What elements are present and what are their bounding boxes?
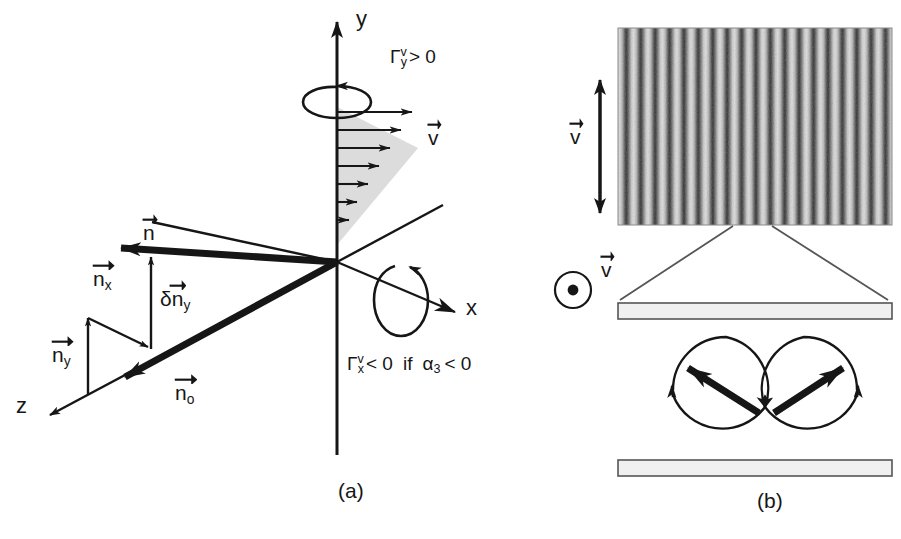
overbar-arrow-icon: [169, 277, 186, 290]
director-nx-subscript: x: [105, 277, 112, 293]
velocity-letter-out-of-plane: v: [601, 258, 612, 281]
overbar-arrow-icon: [600, 248, 615, 261]
director-label-delta-ny: δny: [160, 288, 190, 313]
velocity-vector-letter: v: [428, 126, 439, 149]
convection-roll-left: [672, 337, 768, 429]
overbar-arrow-icon: [569, 115, 584, 128]
guide-line-right: [772, 226, 888, 300]
gamma-x-subscript: x: [358, 362, 364, 376]
director-letter-ny: n: [52, 343, 64, 366]
alpha3-relation: < 0: [444, 353, 471, 374]
y-axis-label: y: [356, 8, 367, 30]
alpha3-subscript: 3: [433, 362, 440, 376]
gamma-x-symbol: Γ: [347, 353, 357, 374]
convection-stripe-photo: [618, 28, 892, 225]
director-letter-n0: n: [175, 381, 187, 404]
overbar-arrow-icon: [92, 257, 115, 270]
director-ny-subscript: y: [64, 353, 71, 369]
velocity-letter-vertical: v: [570, 125, 581, 148]
guide-line-left: [620, 226, 733, 300]
director-letter-delta-ny: δn: [160, 287, 183, 310]
gamma-y-relation: > 0: [409, 46, 436, 67]
velocity-label-vertical: v: [570, 126, 581, 147]
gamma-x-relation: < 0: [366, 353, 393, 374]
overbar-arrow-icon: [174, 371, 197, 384]
component-nx-arrow: [88, 318, 148, 347]
velocity-label-out-of-plane: v: [601, 259, 612, 280]
gamma-x-if-word: if: [403, 353, 413, 374]
director-delta-ny-subscript: y: [183, 297, 190, 313]
overbar-arrow-icon: [142, 211, 158, 224]
figure-root: y x z Γvy> 0 Γvx< 0ifα3< 0 v: [0, 0, 901, 539]
gamma-y-torque-label: Γvy> 0: [390, 46, 436, 69]
roll-left-director-arrow: [688, 368, 759, 413]
z-axis-label: z: [16, 395, 27, 417]
x-axis-line: [337, 262, 455, 312]
top-plate-rect: [618, 303, 892, 319]
bottom-plate-rect: [618, 460, 892, 476]
alpha3-symbol: α: [422, 353, 433, 374]
director-label-nx: nx: [93, 268, 112, 293]
panel-a-graphics: [0, 0, 530, 470]
gamma-x-torque-label: Γvx< 0ifα3< 0: [347, 353, 471, 376]
velocity-out-of-plane-icon: [555, 272, 591, 308]
gamma-y-subscript: y: [401, 55, 407, 69]
director-label-n: n: [143, 222, 155, 243]
director-letter-n: n: [143, 221, 155, 244]
director-vector-n0: [125, 262, 337, 377]
director-n0-subscript: o: [187, 391, 195, 407]
x-axis-label: x: [466, 297, 477, 319]
velocity-vector-label-a: v: [428, 127, 439, 148]
panel-b-graphics: [540, 5, 900, 535]
convection-roll-right: [762, 337, 858, 429]
overbar-arrow-icon: [427, 116, 442, 129]
panel-a-caption: (a): [338, 480, 364, 501]
director-label-n0: no: [175, 382, 194, 407]
director-letter-nx: n: [93, 267, 105, 290]
overbar-arrow-icon: [51, 333, 74, 346]
gamma-y-symbol: Γ: [390, 46, 400, 67]
roll-right-director-arrow: [774, 368, 843, 413]
panel-b-caption: (b): [757, 490, 783, 511]
director-label-ny: ny: [52, 344, 71, 369]
rotation-loop-x: [374, 266, 428, 336]
